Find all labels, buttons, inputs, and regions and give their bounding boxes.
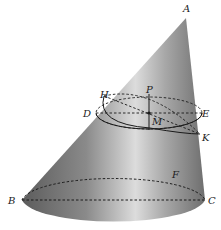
label-c: C bbox=[208, 195, 216, 206]
point-m-dot bbox=[147, 111, 150, 114]
cone-figure: A B C F H P D E M K bbox=[0, 0, 221, 230]
label-f: F bbox=[171, 169, 180, 180]
label-d: D bbox=[82, 108, 91, 119]
cone-diagram: A B C F H P D E M K bbox=[0, 0, 221, 230]
label-e: E bbox=[201, 108, 210, 119]
label-p: P bbox=[145, 84, 153, 95]
label-h: H bbox=[99, 89, 109, 100]
label-k: K bbox=[201, 132, 210, 143]
label-a: A bbox=[182, 3, 190, 14]
label-b: B bbox=[7, 195, 15, 206]
label-m: M bbox=[151, 116, 163, 127]
